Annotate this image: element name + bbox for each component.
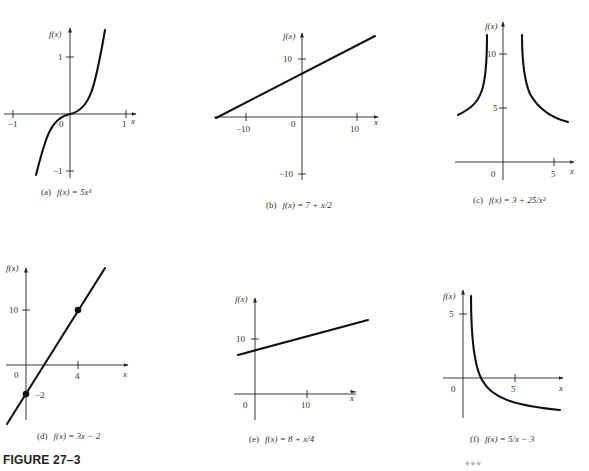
panel-b: −10 0 10 10 −10 f(x) x (b)f(x) = 7 + x/2 <box>214 31 378 210</box>
panel-a: −1 0 1 1 −1 f(x) x (a)f(x) = 5x³ <box>4 28 136 197</box>
x-axis-label: x <box>569 166 574 176</box>
figure-canvas: −1 0 1 1 −1 f(x) x (a)f(x) = 5x³ −10 0 1… <box>0 0 589 471</box>
tick-label: 5 <box>493 103 498 113</box>
x-axis-label: x <box>558 383 563 393</box>
x-axis-label: x <box>130 116 135 126</box>
tick-label: 4 <box>75 371 80 381</box>
caption-f: (f)f(x) = 5/x − 3 <box>470 434 535 444</box>
tick-label: 10 <box>9 305 19 315</box>
tick-label: 0 <box>243 400 248 410</box>
tick-label: 0 <box>291 119 296 129</box>
panel-e: 0 10 10 f(x) x (e)f(x) = 8 + x/4 <box>234 294 368 444</box>
curve-f <box>471 296 560 410</box>
tick-label: 5 <box>449 309 454 319</box>
tick-label: 10 <box>236 334 246 344</box>
curve-c-left <box>458 35 487 115</box>
y-axis-label: f(x) <box>6 263 19 273</box>
panel-d: 0 4 10 −2 f(x) x (d)f(x) = 3x − 2 <box>6 263 128 441</box>
tick-label: 10 <box>283 54 293 64</box>
y-axis-label: f(x) <box>49 29 62 39</box>
y-axis-label: f(x) <box>443 291 456 301</box>
tick-label: −1 <box>8 119 18 129</box>
marked-point <box>23 391 30 398</box>
caption-b: (b)f(x) = 7 + x/2 <box>266 200 332 210</box>
x-axis-label: x <box>349 393 354 403</box>
marked-point <box>75 307 82 314</box>
y-axis-label: f(x) <box>485 21 498 31</box>
tick-label: −10 <box>279 169 294 179</box>
x-axis-label: x <box>122 369 127 379</box>
x-axis-label: x <box>373 117 378 127</box>
y-axis-label: f(x) <box>283 31 296 41</box>
caption-e: (e)f(x) = 8 + x/4 <box>249 434 315 444</box>
tick-label: 10 <box>301 400 311 410</box>
tick-label: −1 <box>53 166 63 176</box>
tick-label: 1 <box>122 119 127 129</box>
curve-a <box>36 30 105 175</box>
tick-label: 0 <box>491 169 496 179</box>
tick-label: 5 <box>511 384 516 394</box>
tick-label: 10 <box>350 124 360 134</box>
curve-b <box>216 36 375 118</box>
tick-label: −2 <box>35 390 45 400</box>
tick-label: 0 <box>59 119 64 129</box>
tick-label: 0 <box>451 384 456 394</box>
tick-label: 5 <box>551 169 556 179</box>
curve-e <box>238 320 368 355</box>
panel-f: 0 5 5 f(x) x (f)f(x) = 5/x − 3 <box>443 290 563 444</box>
tick-label: 0 <box>14 370 19 380</box>
caption-a: (a)f(x) = 5x³ <box>41 187 92 197</box>
figure-label: FIGURE 27–3 <box>3 453 81 467</box>
tick-label: 10 <box>487 49 497 59</box>
tick-label: −10 <box>236 124 251 134</box>
tick-label: 1 <box>58 52 63 62</box>
curve-d <box>7 268 105 424</box>
panel-c: 0 5 10 5 f(x) x (c)f(x) = 3 + 25/x² <box>455 21 574 205</box>
curve-c-right <box>522 35 568 122</box>
y-axis-label: f(x) <box>235 294 248 304</box>
caption-c: (c)f(x) = 3 + 25/x² <box>473 195 546 205</box>
caption-d: (d)f(x) = 3x − 2 <box>37 431 101 441</box>
ornament: ◆◆◆ <box>465 459 482 466</box>
